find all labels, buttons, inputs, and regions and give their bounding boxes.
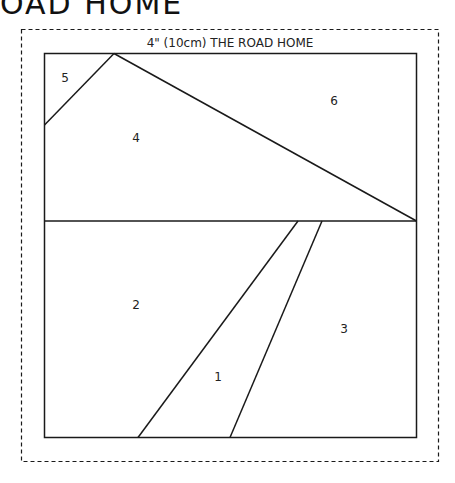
piece-label-5: 5: [61, 71, 69, 85]
piece-label-4: 4: [132, 131, 140, 145]
piece-label-2: 2: [132, 298, 140, 312]
block-title: 4" (10cm) THE ROAD HOME: [147, 36, 314, 50]
foundation-pattern: 4" (10cm) THE ROAD HOME 5 4 6 2 3 1: [0, 0, 455, 483]
seam-4-6: [114, 54, 417, 222]
piece-label-1: 1: [214, 370, 222, 384]
piece-label-3: 3: [340, 322, 348, 336]
seam-road-left: [138, 221, 298, 438]
seam-road-right: [230, 221, 322, 438]
seam-allowance-border: [22, 30, 439, 462]
block-outline: [45, 54, 417, 438]
seam-5-4: [45, 54, 115, 126]
piece-label-6: 6: [330, 94, 338, 108]
